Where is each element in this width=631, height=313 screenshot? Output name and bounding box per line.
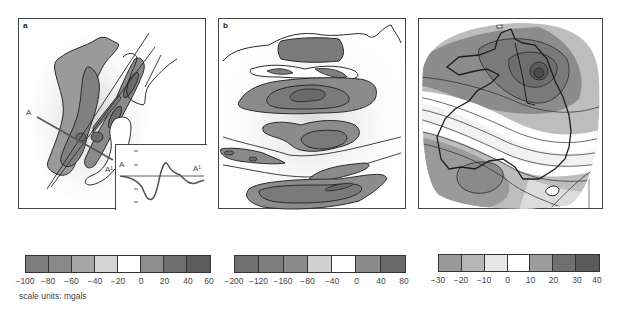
swatch	[381, 256, 405, 272]
scale-bar-a: −100 −80 −60 −40 −20 0 20 40 60	[25, 255, 211, 291]
scale-a-tick: −80	[41, 276, 55, 286]
scale-a-tick: −20	[111, 276, 125, 286]
swatch	[356, 256, 380, 272]
scale-a-tick: 40	[183, 276, 192, 286]
scale-b-tick: 80	[399, 276, 408, 286]
profile-curve	[116, 145, 208, 211]
swatch	[284, 256, 308, 272]
scale-a-tick: −100	[15, 276, 34, 286]
scale-b-tick: −40	[325, 276, 339, 286]
scale-a-tick: −60	[64, 276, 78, 286]
scale-a-swatches	[25, 255, 211, 273]
swatch	[553, 255, 576, 271]
scale-bar-b: −200 −120 −160 −80 −40 0 40 80	[234, 255, 406, 291]
swatch	[72, 256, 95, 272]
scale-a-tick: 20	[160, 276, 169, 286]
panel-c-australia-gravity-map	[418, 18, 603, 209]
swatch	[26, 256, 49, 272]
swatch	[49, 256, 72, 272]
swatch	[259, 256, 283, 272]
swatch	[485, 255, 508, 271]
panel-a-gravity-map: a A A¹ A A¹	[18, 18, 206, 209]
swatch	[164, 256, 187, 272]
scale-b-tick: −160	[273, 276, 292, 286]
swatch	[462, 255, 485, 271]
panel-b-contour-map	[219, 19, 407, 210]
scale-a-tick: −40	[88, 276, 102, 286]
scale-a-tick: 0	[139, 276, 144, 286]
profile-inset: A A¹	[115, 144, 207, 210]
swatch	[576, 255, 599, 271]
scale-bar-c: −30 −20 −10 0 10 20 30 40	[438, 254, 600, 290]
swatch	[508, 255, 531, 271]
inset-end-label: A¹	[193, 164, 201, 173]
inset-start-label: A	[119, 160, 124, 169]
panel-label-a: a	[23, 21, 27, 30]
scale-b-tick: −80	[300, 276, 314, 286]
swatch	[308, 256, 332, 272]
scale-c-tick: −10	[477, 275, 491, 285]
panel-c-contour-map	[419, 19, 604, 210]
swatch	[118, 256, 141, 272]
swatch	[530, 255, 553, 271]
swatch	[141, 256, 164, 272]
scale-c-tick: 10	[526, 275, 535, 285]
panel-b-gravity-map: b	[218, 18, 406, 209]
scale-units-label: scale units: mgals	[19, 291, 87, 301]
section-start-label: A	[26, 108, 31, 117]
panel-label-b: b	[223, 21, 228, 30]
section-end-label: A¹	[105, 165, 113, 174]
scale-a-tick: 60	[204, 276, 213, 286]
swatch	[332, 256, 356, 272]
scale-c-tick: 0	[505, 275, 510, 285]
swatch	[187, 256, 210, 272]
scale-b-tick: 40	[376, 276, 385, 286]
scale-c-tick: −20	[454, 275, 468, 285]
scale-c-tick: −30	[431, 275, 445, 285]
swatch	[235, 256, 259, 272]
swatch	[439, 255, 462, 271]
scale-b-tick: 0	[354, 276, 359, 286]
scale-b-tick: −120	[249, 276, 268, 286]
scale-b-swatches	[234, 255, 406, 273]
scale-b-tick: −200	[224, 276, 243, 286]
scale-c-tick: 30	[572, 275, 581, 285]
swatch	[95, 256, 118, 272]
scale-c-swatches	[438, 254, 600, 272]
scale-c-tick: 20	[549, 275, 558, 285]
scale-c-tick: 40	[592, 275, 601, 285]
